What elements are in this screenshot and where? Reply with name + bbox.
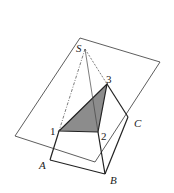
- pyramid-section-diagram: S 3 1 2 C A B: [0, 0, 174, 193]
- label-A: A: [38, 159, 46, 171]
- label-S: S: [76, 42, 82, 54]
- label-1: 1: [50, 125, 56, 137]
- label-2: 2: [101, 130, 107, 142]
- label-C: C: [134, 117, 142, 129]
- edge-3-C: [107, 84, 128, 117]
- edge-A-B: [50, 160, 105, 174]
- label-B: B: [110, 174, 117, 186]
- cutting-plane: [15, 38, 160, 162]
- edge-B-C: [105, 117, 128, 174]
- label-3: 3: [106, 73, 112, 85]
- section-triangle: [59, 84, 107, 132]
- edge-S-3: [85, 49, 107, 84]
